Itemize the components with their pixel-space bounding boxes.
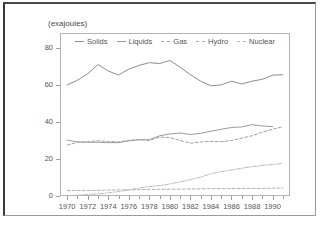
y-tick-label: 40 bbox=[33, 117, 53, 126]
series-line-hydro bbox=[67, 188, 283, 191]
data-series-group bbox=[67, 60, 283, 195]
chart-figure: (exajoules) SolidsLiquidsGasHydroNuclear… bbox=[0, 0, 331, 235]
y-tick-label: 60 bbox=[33, 80, 53, 89]
y-tick-label: 0 bbox=[33, 191, 53, 200]
x-tick-label: 1990 bbox=[260, 202, 286, 211]
series-line-solids bbox=[67, 60, 283, 85]
y-tick-label: 80 bbox=[33, 43, 53, 52]
series-line-liquids bbox=[67, 125, 272, 143]
y-tick-label: 20 bbox=[33, 154, 53, 163]
